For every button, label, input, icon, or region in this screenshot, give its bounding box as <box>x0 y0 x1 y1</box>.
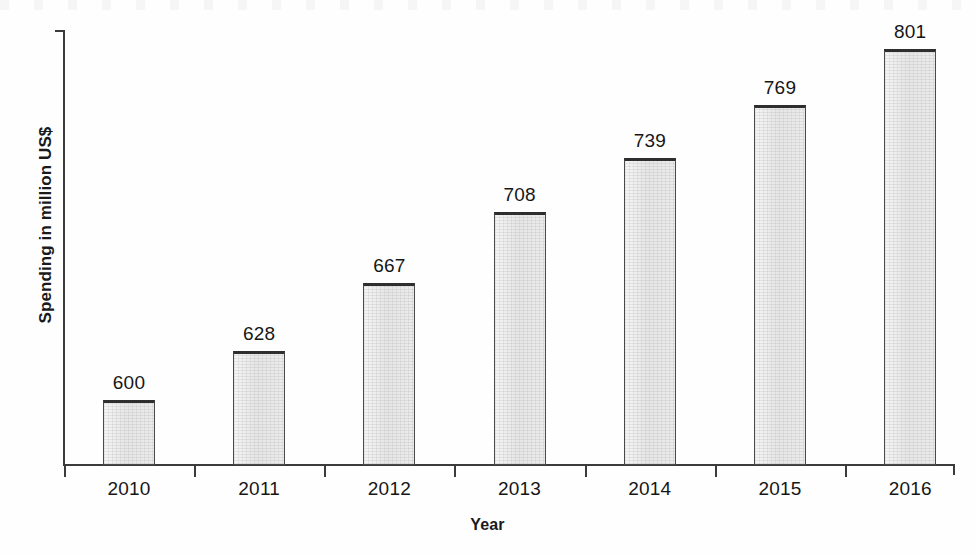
bar-group: 600 <box>103 400 155 465</box>
bar-group: 801 <box>884 49 936 465</box>
bar-group: 739 <box>624 158 676 465</box>
bar[interactable] <box>754 105 806 465</box>
bar[interactable] <box>494 212 546 465</box>
x-axis-tick <box>194 466 196 477</box>
bar[interactable] <box>363 283 415 465</box>
x-tick-label-2015: 2015 <box>715 478 845 500</box>
x-axis-tick <box>585 466 587 477</box>
x-tick-label-2013: 2013 <box>455 478 585 500</box>
x-tick-label-2014: 2014 <box>585 478 715 500</box>
x-tick-label-2016: 2016 <box>845 478 975 500</box>
bar[interactable] <box>103 400 155 465</box>
x-axis-tick <box>715 466 717 477</box>
bar-group: 708 <box>494 212 546 465</box>
x-tick-label-2010: 2010 <box>64 478 194 500</box>
scan-artifact <box>0 0 975 10</box>
x-axis-tick <box>454 466 456 477</box>
x-tick-label-2011: 2011 <box>194 478 324 500</box>
x-axis-title: Year <box>0 516 975 534</box>
bar-value-label: 708 <box>472 184 568 206</box>
bar-value-label: 667 <box>341 255 437 277</box>
bar[interactable] <box>233 351 285 465</box>
bar-group: 628 <box>233 351 285 465</box>
x-axis-tick <box>324 466 326 477</box>
x-axis-end-tick <box>953 464 955 475</box>
plot-area: 600628667708739769801 <box>63 30 955 465</box>
bar-value-label: 801 <box>862 21 958 43</box>
bar-value-label: 769 <box>732 77 828 99</box>
bar-value-label: 628 <box>211 323 307 345</box>
x-axis-tick <box>64 466 66 477</box>
bar[interactable] <box>884 49 936 465</box>
bar-group: 769 <box>754 105 806 465</box>
x-axis-tick <box>845 466 847 477</box>
bar-group: 667 <box>363 283 415 465</box>
bar-chart: Spending in million US$ 6006286677087397… <box>0 0 975 555</box>
bar-value-label: 739 <box>602 130 698 152</box>
x-tick-label-2012: 2012 <box>324 478 454 500</box>
bar-value-label: 600 <box>81 372 177 394</box>
y-axis-title: Spending in million US$ <box>36 75 56 375</box>
bar[interactable] <box>624 158 676 465</box>
